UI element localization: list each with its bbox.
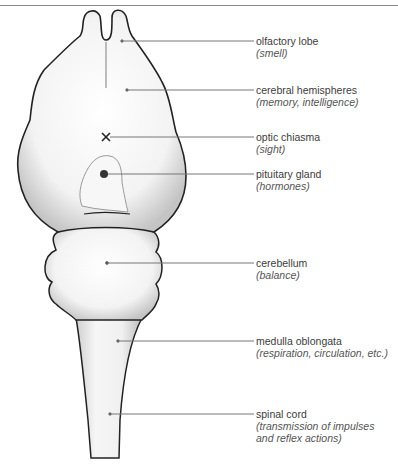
label-name: cerebellum xyxy=(256,257,307,269)
label-function: (sight) xyxy=(256,143,320,155)
label-cerebral-hemispheres: cerebral hemispheres (memory, intelligen… xyxy=(256,84,359,108)
label-function-line1: (transmission of impulses xyxy=(256,420,374,432)
label-cerebellum: cerebellum (balance) xyxy=(256,257,307,281)
medulla-spinal-cord-shape xyxy=(76,318,142,458)
cerebellum-shape xyxy=(45,224,162,320)
label-olfactory-lobe: olfactory lobe (smell) xyxy=(256,35,318,59)
label-name: pituitary gland xyxy=(256,168,321,180)
pituitary-gland-dot xyxy=(100,170,108,178)
label-name: medulla oblongata xyxy=(256,335,388,347)
label-optic-chiasma: optic chiasma (sight) xyxy=(256,131,320,155)
label-function: (balance) xyxy=(256,269,307,281)
label-function-line2: and reflex actions) xyxy=(256,432,374,444)
label-function: (smell) xyxy=(256,47,318,59)
brain-illustration xyxy=(0,0,398,470)
label-name: olfactory lobe xyxy=(256,35,318,47)
label-name: spinal cord xyxy=(256,408,374,420)
label-spinal-cord: spinal cord (transmission of impulses an… xyxy=(256,408,374,444)
label-pituitary-gland: pituitary gland (hormones) xyxy=(256,168,321,192)
label-name: optic chiasma xyxy=(256,131,320,143)
label-medulla-oblongata: medulla oblongata (respiration, circulat… xyxy=(256,335,388,359)
label-function: (respiration, circulation, etc.) xyxy=(256,347,388,359)
label-name: cerebral hemispheres xyxy=(256,84,359,96)
label-function: (memory, intelligence) xyxy=(256,96,359,108)
label-function: (hormones) xyxy=(256,180,321,192)
